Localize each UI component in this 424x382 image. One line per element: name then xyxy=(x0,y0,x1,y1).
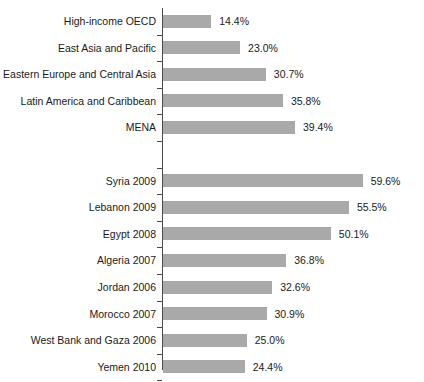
bar-row: Morocco 200730.9% xyxy=(0,301,424,328)
category-label: Syria 2009 xyxy=(2,168,156,195)
bar xyxy=(163,281,272,294)
category-label: Algeria 2007 xyxy=(2,247,156,274)
bar xyxy=(163,227,331,240)
bar-row: East Asia and Pacific23.0% xyxy=(0,35,424,62)
bar xyxy=(163,94,283,107)
bar-value-label: 35.8% xyxy=(291,88,321,115)
bar xyxy=(163,15,211,28)
bar xyxy=(163,360,245,373)
bar xyxy=(163,174,363,187)
bar-value-label: 50.1% xyxy=(339,221,369,248)
bar-row: Syria 200959.6% xyxy=(0,168,424,195)
bar-value-label: 39.4% xyxy=(303,114,333,141)
bar-chart: High-income OECD14.4%East Asia and Pacif… xyxy=(0,0,424,382)
bar xyxy=(163,334,247,347)
category-label: Egypt 2008 xyxy=(2,221,156,248)
category-label: Eastern Europe and Central Asia xyxy=(2,61,156,88)
bar-row-spacer xyxy=(0,141,424,168)
bar xyxy=(163,68,266,81)
bar-row: Lebanon 200955.5% xyxy=(0,194,424,221)
bar-value-label: 36.8% xyxy=(294,247,324,274)
bar-row: MENA39.4% xyxy=(0,114,424,141)
category-label: Latin America and Caribbean xyxy=(2,88,156,115)
bar-row: Jordan 200632.6% xyxy=(0,274,424,301)
bar-value-label: 32.6% xyxy=(280,274,310,301)
category-label: Jordan 2006 xyxy=(2,274,156,301)
category-label: Morocco 2007 xyxy=(2,301,156,328)
category-label: West Bank and Gaza 2006 xyxy=(2,327,156,354)
plot-area: High-income OECD14.4%East Asia and Pacif… xyxy=(0,0,424,382)
axis-tick xyxy=(157,380,162,381)
bar-value-label: 59.6% xyxy=(371,168,401,195)
bar-row: Latin America and Caribbean35.8% xyxy=(0,88,424,115)
bar xyxy=(163,41,240,54)
bar xyxy=(163,307,267,320)
bar-row: Egypt 200850.1% xyxy=(0,221,424,248)
bar xyxy=(163,201,349,214)
category-label xyxy=(2,141,156,168)
category-label: Yemen 2010 xyxy=(2,354,156,381)
category-label: MENA xyxy=(2,114,156,141)
bar-row: Eastern Europe and Central Asia30.7% xyxy=(0,61,424,88)
bar-value-label: 24.4% xyxy=(253,354,283,381)
bar-row: Algeria 200736.8% xyxy=(0,247,424,274)
bar-value-label: 14.4% xyxy=(219,8,249,35)
bar xyxy=(163,121,295,134)
bar-value-label: 25.0% xyxy=(255,327,285,354)
bar-value-label: 55.5% xyxy=(357,194,387,221)
category-label: East Asia and Pacific xyxy=(2,35,156,62)
bar-value-label: 30.9% xyxy=(275,301,305,328)
category-label: High-income OECD xyxy=(2,8,156,35)
bar-row: Yemen 201024.4% xyxy=(0,354,424,381)
bar-row: High-income OECD14.4% xyxy=(0,8,424,35)
bar-value-label: 23.0% xyxy=(248,35,278,62)
bar-value-label: 30.7% xyxy=(274,61,304,88)
bar xyxy=(163,254,286,267)
bar-row: West Bank and Gaza 200625.0% xyxy=(0,327,424,354)
category-label: Lebanon 2009 xyxy=(2,194,156,221)
